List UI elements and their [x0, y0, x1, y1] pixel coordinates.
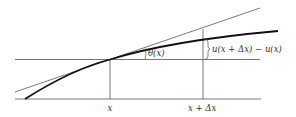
diagram-canvas: θ(x) u(x + Δx) − u(x) x x + Δx [0, 0, 296, 117]
increment-label: u(x + Δx) − u(x) [212, 44, 282, 54]
angle-label: θ(x) [148, 48, 165, 58]
x-label: x [108, 103, 113, 113]
x-delta-label: x + Δx [188, 103, 216, 113]
curve-u [25, 31, 278, 99]
angle-arc [145, 49, 146, 60]
increment-brace [205, 39, 210, 60]
